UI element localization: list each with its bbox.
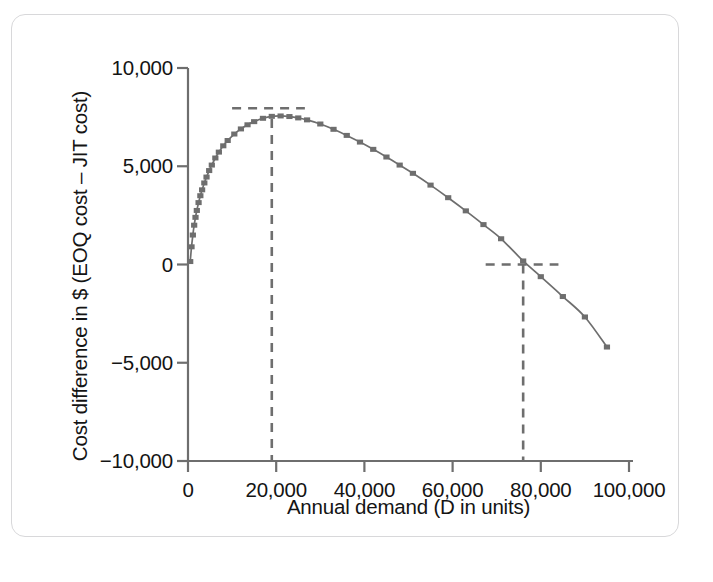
series-marker [498,236,504,241]
series-marker [220,143,226,148]
series-marker [244,122,250,127]
series-marker [410,171,416,176]
series-marker [188,244,194,249]
series-marker [370,147,376,152]
series-marker [199,187,205,192]
series-marker [201,180,207,185]
series-marker [212,156,218,161]
series-marker [251,119,257,124]
series-marker [397,163,403,168]
series-marker [295,115,301,120]
series-marker [225,138,231,143]
series-marker [238,126,244,131]
series-marker [480,222,486,227]
series-marker [203,175,209,180]
y-axis-title: Cost difference in $ (EOQ cost – JIT cos… [68,66,92,486]
series-marker [560,294,566,299]
series-marker [195,200,201,205]
series-marker [317,122,323,127]
x-axis-title: Annual demand (D in units) [188,495,629,519]
series-marker [194,208,200,213]
series-marker [206,168,212,173]
series-marker [260,116,266,121]
series-marker [538,274,544,279]
series-marker [197,193,203,198]
series-marker [286,114,292,119]
series-marker [463,208,469,213]
series-marker [269,114,275,119]
series-marker [191,223,197,228]
series-marker [604,345,610,350]
series-marker [445,195,451,200]
series-marker [344,133,350,138]
series-marker [330,127,336,132]
series-marker [187,259,193,264]
series-marker [520,258,526,263]
series-marker [190,233,196,238]
series-marker [383,155,389,160]
series-marker [192,215,198,220]
series-marker [209,163,215,168]
series-marker [278,113,284,118]
series-marker [582,314,588,319]
series-marker [304,117,310,122]
series-marker [357,140,363,145]
series-line-0 [190,116,607,347]
series-marker [231,132,237,137]
series-marker [216,150,222,155]
chart-plot-area: −10,000−5,00005,00010,000 020,00040,0006… [0,0,713,582]
series-marker [427,183,433,188]
